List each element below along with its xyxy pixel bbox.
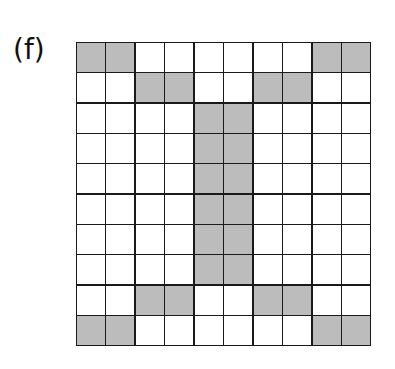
grid-cell-empty bbox=[342, 225, 370, 254]
grid-cell-empty bbox=[77, 225, 105, 254]
grid-cell-filled bbox=[224, 134, 252, 163]
grid-cell-empty bbox=[136, 164, 164, 193]
grid-cell-empty bbox=[313, 255, 341, 284]
grid-cell-empty bbox=[136, 316, 164, 345]
grid-cell-empty bbox=[254, 255, 282, 284]
grid-cell-empty bbox=[77, 255, 105, 284]
grid-cell-empty bbox=[106, 73, 134, 102]
grid-cell-empty bbox=[313, 286, 341, 315]
grid-cell-filled bbox=[77, 43, 105, 72]
grid-cell-empty bbox=[165, 134, 193, 163]
grid-cell-filled bbox=[195, 164, 223, 193]
grid-cell-empty bbox=[342, 195, 370, 224]
grid-cell-empty bbox=[283, 225, 311, 254]
grid-cell-empty bbox=[254, 134, 282, 163]
grid-cell-empty bbox=[224, 73, 252, 102]
grid-cell-filled bbox=[224, 104, 252, 133]
grid-cell-empty bbox=[195, 286, 223, 315]
grid-cell-empty bbox=[342, 73, 370, 102]
grid-cell-empty bbox=[224, 316, 252, 345]
grid-cell-empty bbox=[283, 104, 311, 133]
grid-cell-empty bbox=[165, 316, 193, 345]
grid-cell-filled bbox=[313, 316, 341, 345]
grid-cell-empty bbox=[283, 255, 311, 284]
grid-cell-empty bbox=[106, 286, 134, 315]
grid-cell-empty bbox=[283, 316, 311, 345]
grid-cell-empty bbox=[77, 134, 105, 163]
grid-cell-filled bbox=[165, 73, 193, 102]
grid-cell-empty bbox=[195, 43, 223, 72]
grid-cell-empty bbox=[106, 164, 134, 193]
grid-cell-empty bbox=[165, 104, 193, 133]
grid-cell-empty bbox=[283, 43, 311, 72]
grid-cell-filled bbox=[283, 73, 311, 102]
grid-cell-empty bbox=[254, 43, 282, 72]
grid-cell-empty bbox=[313, 195, 341, 224]
grid-cell-filled bbox=[195, 255, 223, 284]
grid-cell-empty bbox=[165, 43, 193, 72]
grid-cell-empty bbox=[195, 73, 223, 102]
grid-cell-filled bbox=[224, 255, 252, 284]
grid-cell-empty bbox=[106, 104, 134, 133]
grid-cell-empty bbox=[136, 255, 164, 284]
grid-cell-filled bbox=[195, 225, 223, 254]
grid-cell-empty bbox=[224, 43, 252, 72]
grid-cell-empty bbox=[136, 43, 164, 72]
grid-cell-empty bbox=[313, 73, 341, 102]
grid-cell-empty bbox=[313, 225, 341, 254]
grid-cell-empty bbox=[254, 195, 282, 224]
grid-cell-filled bbox=[106, 43, 134, 72]
grid-cell-filled bbox=[283, 286, 311, 315]
grid-cell-empty bbox=[254, 104, 282, 133]
grid-cell-empty bbox=[136, 225, 164, 254]
grid-cell-empty bbox=[283, 164, 311, 193]
grid-cell-empty bbox=[77, 104, 105, 133]
grid-cell-empty bbox=[165, 225, 193, 254]
grid-cell-empty bbox=[254, 316, 282, 345]
grid-cell-filled bbox=[195, 134, 223, 163]
grid-cell-empty bbox=[77, 286, 105, 315]
grid-cell-empty bbox=[313, 134, 341, 163]
grid-cell-filled bbox=[342, 43, 370, 72]
grid-cell-filled bbox=[254, 286, 282, 315]
grid-cell-empty bbox=[165, 195, 193, 224]
grid-cell-empty bbox=[106, 255, 134, 284]
grid-cell-empty bbox=[165, 255, 193, 284]
grid-cell-empty bbox=[106, 225, 134, 254]
grid-cell-filled bbox=[195, 195, 223, 224]
grid-cell-filled bbox=[77, 316, 105, 345]
grid-cell-filled bbox=[224, 225, 252, 254]
figure-label: (f) bbox=[13, 33, 45, 66]
grid-cell-empty bbox=[136, 104, 164, 133]
grid-cell-empty bbox=[342, 164, 370, 193]
grid-cell-empty bbox=[224, 286, 252, 315]
grid-cell-filled bbox=[224, 164, 252, 193]
grid-cell-empty bbox=[313, 164, 341, 193]
grid-cell-empty bbox=[77, 164, 105, 193]
grid-cell-filled bbox=[342, 316, 370, 345]
grid-cell-empty bbox=[313, 104, 341, 133]
grid-cell-empty bbox=[283, 195, 311, 224]
grid-cell-empty bbox=[195, 316, 223, 345]
grid-cell-filled bbox=[106, 316, 134, 345]
grid-cell-filled bbox=[195, 104, 223, 133]
grid-cell-empty bbox=[342, 134, 370, 163]
grid-cell-empty bbox=[165, 164, 193, 193]
grid-cell-empty bbox=[136, 195, 164, 224]
grid-cell-filled bbox=[254, 73, 282, 102]
grid-cell-empty bbox=[106, 134, 134, 163]
grid-cell-empty bbox=[77, 73, 105, 102]
grid-cell-filled bbox=[313, 43, 341, 72]
grid-cell-empty bbox=[342, 286, 370, 315]
grid-cell-empty bbox=[283, 134, 311, 163]
grid-cell-empty bbox=[254, 164, 282, 193]
grid-cell-empty bbox=[136, 134, 164, 163]
grid-cell-filled bbox=[224, 195, 252, 224]
grid-cell-empty bbox=[342, 255, 370, 284]
grid-cell-filled bbox=[136, 73, 164, 102]
grid-cell-empty bbox=[342, 104, 370, 133]
grid-cell-filled bbox=[165, 286, 193, 315]
pixel-grid bbox=[76, 42, 371, 346]
grid-cell-empty bbox=[77, 195, 105, 224]
grid-cell-filled bbox=[136, 286, 164, 315]
